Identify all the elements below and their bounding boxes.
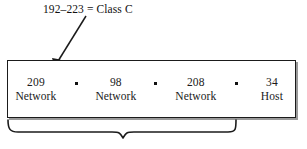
octet-separator-dot [143,61,168,117]
octet-group-3: 208 Network [168,75,224,103]
octet-role: Host [261,89,283,103]
octet-value: 209 [27,75,45,89]
octet-group-4: 34 Host [249,75,295,103]
dot-icon [75,82,78,85]
curly-brace-icon [0,116,250,149]
octet-value: 34 [266,75,278,89]
octet-role: Network [95,89,136,103]
octet-separator-dot [64,61,89,117]
ip-address-box: 209 Network 98 Network 208 Network [7,60,296,118]
octet-role: Network [15,89,56,103]
dot-icon [235,82,238,85]
dot-icon [154,82,157,85]
octet-group-1: 209 Network [8,75,64,103]
octet-value: 98 [110,75,122,89]
octet-separator-dot [224,61,249,117]
octet-row: 209 Network 98 Network 208 Network [8,61,295,117]
octet-role: Network [175,89,216,103]
figure-canvas: 192–223 = Class C 209 Network 98 Network [0,0,307,149]
octet-group-2: 98 Network [89,75,143,103]
octet-value: 208 [187,75,205,89]
